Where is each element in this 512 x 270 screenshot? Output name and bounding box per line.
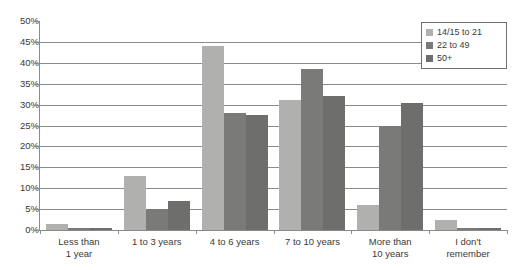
y-axis-tick-label: 25% bbox=[5, 121, 39, 131]
bar-group bbox=[351, 21, 429, 230]
x-axis-tick-mark bbox=[274, 230, 275, 234]
bar bbox=[479, 228, 501, 230]
x-axis-tick-label: 7 to 10 years bbox=[274, 236, 352, 248]
legend-item: 50+ bbox=[426, 52, 502, 65]
y-axis-tick-label: 30% bbox=[5, 100, 39, 110]
bar bbox=[146, 209, 168, 230]
bar bbox=[168, 201, 190, 230]
bar bbox=[279, 100, 301, 230]
legend-item-label: 22 to 49 bbox=[437, 41, 470, 50]
x-axis-tick-mark bbox=[196, 230, 197, 234]
legend-swatch-icon bbox=[426, 29, 433, 36]
x-axis-tick-mark bbox=[118, 230, 119, 234]
legend-item-label: 50+ bbox=[437, 54, 452, 63]
bar bbox=[90, 228, 112, 230]
y-axis-tick-label: 0% bbox=[5, 225, 39, 235]
chart-title-clipped bbox=[0, 0, 512, 4]
bar bbox=[124, 176, 146, 230]
x-axis-tick-label: 1 to 3 years bbox=[118, 236, 196, 248]
y-axis-tick-label: 40% bbox=[5, 58, 39, 68]
bar-group bbox=[274, 21, 352, 230]
y-axis-tick-label: 45% bbox=[5, 37, 39, 47]
bar bbox=[202, 46, 224, 230]
y-axis-tick-label: 35% bbox=[5, 79, 39, 89]
y-axis-tick-label: 15% bbox=[5, 162, 39, 172]
bar bbox=[323, 96, 345, 230]
x-axis-tick-label: 4 to 6 years bbox=[196, 236, 274, 248]
legend-swatch-icon bbox=[426, 42, 433, 49]
legend-swatch-icon bbox=[426, 55, 433, 62]
x-axis-tick-mark bbox=[429, 230, 430, 234]
bar-group-bars bbox=[196, 21, 274, 230]
bar bbox=[246, 115, 268, 230]
x-axis-tick-label: More than10 years bbox=[351, 236, 429, 260]
bar-group-bars bbox=[118, 21, 196, 230]
bar bbox=[435, 220, 457, 230]
legend-item: 14/15 to 21 bbox=[426, 26, 502, 39]
bar bbox=[301, 69, 323, 230]
y-axis-labels: 50%45%40%35%30%25%20%15%10%5%0% bbox=[0, 0, 39, 270]
bar bbox=[401, 103, 423, 230]
x-axis-labels: Less than1 year1 to 3 years4 to 6 years7… bbox=[40, 236, 507, 270]
x-axis-tick-mark bbox=[351, 230, 352, 234]
bar-group-bars bbox=[351, 21, 429, 230]
bar bbox=[357, 205, 379, 230]
x-axis-tick-label: Less than1 year bbox=[40, 236, 118, 260]
x-axis-tick-mark bbox=[40, 230, 41, 234]
legend-item: 22 to 49 bbox=[426, 39, 502, 52]
y-axis-tick-label: 20% bbox=[5, 141, 39, 151]
bar bbox=[224, 113, 246, 230]
bar-chart: 50%45%40%35%30%25%20%15%10%5%0% Less tha… bbox=[0, 0, 512, 270]
bar-group-bars bbox=[274, 21, 352, 230]
bar-group-bars bbox=[40, 21, 118, 230]
x-axis-tick-label: I don'tremember bbox=[429, 236, 507, 260]
y-axis-tick-label: 50% bbox=[5, 16, 39, 26]
legend-item-label: 14/15 to 21 bbox=[437, 28, 482, 37]
bar-group bbox=[118, 21, 196, 230]
y-axis-tick-label: 10% bbox=[5, 183, 39, 193]
bar bbox=[68, 228, 90, 230]
x-axis-tick-mark bbox=[507, 230, 508, 234]
bar bbox=[46, 224, 68, 230]
bar-group bbox=[196, 21, 274, 230]
chart-legend: 14/15 to 2122 to 4950+ bbox=[421, 22, 507, 69]
bar bbox=[379, 126, 401, 231]
bar-group bbox=[40, 21, 118, 230]
bar bbox=[457, 228, 479, 230]
y-axis-tick-label: 5% bbox=[5, 204, 39, 214]
